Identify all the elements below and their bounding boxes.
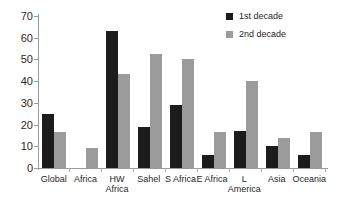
x-axis-tick-mark <box>230 168 262 172</box>
bar-group <box>70 16 102 168</box>
y-axis-tick-label: 30 <box>21 97 33 108</box>
bar-group <box>38 16 70 168</box>
bar-group <box>102 16 134 168</box>
legend-swatch-1st-decade <box>226 13 233 20</box>
x-axis-tick-mark <box>70 168 102 172</box>
x-axis-tick-mark <box>262 168 294 172</box>
x-axis-tick-label-line1: Oceania <box>293 174 327 184</box>
y-axis-tick-label: 40 <box>21 76 33 87</box>
bar-series2 <box>54 132 66 168</box>
x-axis-tick-label: S Africa <box>165 174 197 204</box>
legend-item-label: 2nd decade <box>239 30 286 39</box>
x-axis-tick-mark <box>198 168 230 172</box>
bar-series1 <box>202 155 214 168</box>
y-axis-tick-labels: 010203040506070 <box>0 0 33 184</box>
bar-series2 <box>246 81 258 168</box>
bar-series1 <box>298 155 310 168</box>
x-axis-tick-label-line1: Asia <box>268 174 286 184</box>
x-axis-tick-mark <box>38 168 70 172</box>
bar-series2 <box>278 138 290 168</box>
x-axis-tick-mark <box>294 168 326 172</box>
legend-item[interactable]: 2nd decade <box>226 30 336 39</box>
bar-series2 <box>182 59 194 168</box>
x-axis-tick-mark <box>102 168 134 172</box>
y-axis-tick-label: 70 <box>21 11 33 22</box>
x-axis-tick-marks <box>38 168 326 172</box>
bar-series1 <box>234 131 246 168</box>
bar-group <box>134 16 166 168</box>
x-axis-tick-mark <box>134 168 166 172</box>
x-axis-tick-label-line2: Africa <box>101 184 133 194</box>
y-axis-tick-label: 20 <box>21 119 33 130</box>
y-axis-tick-label: 10 <box>21 141 33 152</box>
y-axis-tick-mark <box>34 146 38 147</box>
y-axis-tick-label: 60 <box>21 32 33 43</box>
x-axis-tick-label: HWAfrica <box>101 174 133 204</box>
chart-legend: 1st decade2nd decade <box>226 12 336 48</box>
bar-series1 <box>42 114 54 168</box>
y-axis-tick-mark <box>34 38 38 39</box>
bar-chart: 010203040506070 GlobalAfricaHWAfricaSahe… <box>0 0 342 204</box>
y-axis-tick-mark <box>34 81 38 82</box>
x-axis-tick-mark <box>166 168 198 172</box>
bar-series2 <box>310 132 322 168</box>
bar-series1 <box>106 31 118 168</box>
bar-series1 <box>138 127 150 168</box>
bar-series1 <box>266 146 278 168</box>
x-axis-tick-label-line1: Sahel <box>137 174 160 184</box>
x-axis-tick-label: E Africa <box>196 174 228 204</box>
legend-item[interactable]: 1st decade <box>226 12 336 21</box>
legend-swatch-2nd-decade <box>226 31 233 38</box>
y-axis-tick-mark <box>34 16 38 17</box>
x-axis-tick-label-line1: HW <box>110 174 125 184</box>
y-axis-tick-label: 50 <box>21 54 33 65</box>
x-axis-tick-label: Sahel <box>133 174 165 204</box>
x-axis-tick-label: Africa <box>70 174 102 204</box>
y-axis-tick-mark <box>34 125 38 126</box>
x-axis-tick-label: Oceania <box>293 174 327 204</box>
bar-series2 <box>86 148 98 168</box>
y-axis-tick-mark <box>34 103 38 104</box>
x-axis-tick-label-line1: S Africa <box>165 174 196 184</box>
y-axis-tick-mark <box>34 59 38 60</box>
x-axis-tick-label-line1: L <box>242 174 247 184</box>
bar-series2 <box>150 54 162 168</box>
x-axis-tick-label-line1: E Africa <box>197 174 228 184</box>
legend-item-label: 1st decade <box>239 12 283 21</box>
x-axis-tick-label-line2: America <box>228 184 261 194</box>
y-axis-tick-label: 0 <box>27 163 33 174</box>
y-axis-tick-mark <box>34 168 38 169</box>
x-axis-tick-label-line1: Global <box>41 174 67 184</box>
x-axis-tick-label: Global <box>38 174 70 204</box>
bar-group <box>166 16 198 168</box>
x-axis-tick-label: Asia <box>261 174 293 204</box>
bar-series2 <box>118 74 130 168</box>
x-axis-tick-label: LAmerica <box>228 174 261 204</box>
x-axis-tick-labels: GlobalAfricaHWAfricaSahelS AfricaE Afric… <box>38 174 326 204</box>
bar-series2 <box>214 132 226 168</box>
x-axis-tick-label-line1: Africa <box>74 174 97 184</box>
bar-series1 <box>170 105 182 168</box>
